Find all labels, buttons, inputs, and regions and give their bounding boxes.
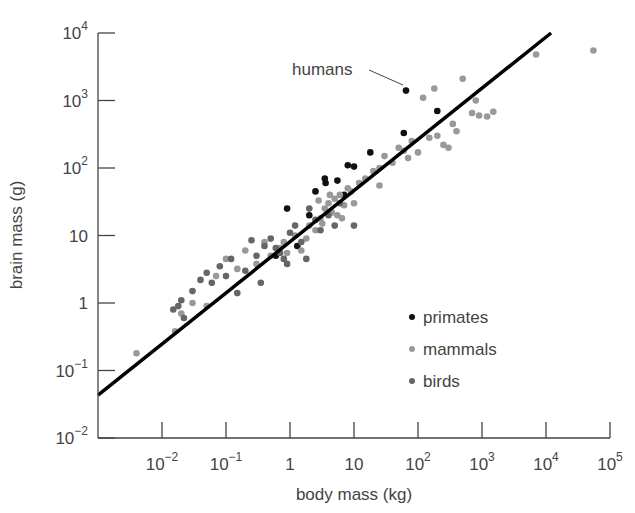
mammals-point (298, 247, 305, 254)
y-tick-label: 10 (69, 227, 88, 246)
annotation-label: humans (292, 60, 352, 79)
x-tick-label: 10−2 (146, 450, 179, 474)
mammals-point (327, 192, 334, 199)
mammals-point (426, 135, 433, 142)
mammals-point (533, 51, 540, 58)
primates-point (284, 205, 291, 212)
birds-point (178, 297, 185, 304)
birds-point (209, 279, 216, 286)
x-ticks: 10−210−1110102103104105 (146, 422, 623, 474)
mammals-legend-label: mammals (423, 340, 497, 359)
primates-point (334, 177, 341, 184)
birds-point (306, 205, 313, 212)
x-tick-label: 104 (533, 450, 559, 474)
birds-point (234, 290, 241, 297)
mammals-point (351, 200, 358, 207)
y-tick-label: 10−2 (55, 424, 88, 448)
primates-point (434, 108, 441, 115)
x-tick-label: 10 (345, 455, 364, 474)
primates-point (312, 188, 319, 195)
birds-point (258, 279, 265, 286)
birds-point (203, 270, 210, 277)
y-ticks: 10410310210110−110−2 (55, 19, 115, 448)
mammals-point (339, 215, 346, 222)
birds-point (292, 222, 299, 229)
y-tick-label: 1 (79, 294, 88, 313)
y-tick-label: 104 (62, 19, 88, 43)
birds-legend-marker (409, 378, 415, 384)
mammals-point (415, 149, 422, 156)
y-tick-label: 103 (62, 87, 88, 111)
x-tick-label: 1 (285, 455, 294, 474)
birds-point (175, 303, 182, 310)
birds-point (267, 235, 274, 242)
x-axis-title: body mass (kg) (296, 485, 412, 504)
mammals-point (420, 94, 427, 101)
x-tick-label: 105 (597, 450, 623, 474)
mammals-point (490, 109, 497, 116)
mammals-point (453, 128, 460, 135)
mammals-point (234, 266, 241, 273)
primates-legend-marker (409, 314, 415, 320)
mammals-point (315, 197, 322, 204)
mammals-point (431, 85, 438, 92)
birds-point (331, 222, 338, 229)
birds-point (242, 268, 249, 275)
y-axis-title: brain mass (g) (7, 181, 26, 290)
birds-point (317, 227, 324, 234)
primates-point (403, 87, 410, 94)
mammals-point (590, 47, 597, 54)
mammals-point (484, 113, 491, 120)
mammals-point (476, 112, 483, 119)
primates-point (322, 180, 329, 187)
axes (98, 33, 610, 438)
primates-point (306, 212, 313, 219)
birds-point (228, 256, 235, 263)
birds-point (287, 229, 294, 236)
primates-point (401, 130, 408, 137)
mammals-point (381, 153, 388, 160)
primates-point (345, 162, 352, 169)
mammals-legend-marker (409, 346, 415, 352)
birds-point (189, 288, 196, 295)
annotation-humans: humans (292, 60, 403, 85)
birds-point (181, 315, 188, 322)
x-tick-label: 10−1 (210, 450, 243, 474)
mammals-point (376, 182, 383, 189)
mammals-point (445, 144, 452, 151)
birds-point (303, 256, 310, 263)
primates-legend-label: primates (423, 308, 488, 327)
y-tick-label: 10−1 (55, 357, 88, 381)
mammals-point (319, 220, 326, 227)
mammals-point (337, 192, 344, 199)
x-tick-label: 103 (469, 450, 495, 474)
mammals-point (405, 155, 412, 162)
scatter-chart: 10410310210110−110−2 10−210−111010210310… (0, 0, 635, 513)
x-tick-label: 102 (405, 450, 431, 474)
mammals-point (189, 300, 196, 307)
mammals-point (242, 247, 249, 254)
birds-point (223, 273, 230, 280)
birds-legend-label: birds (423, 372, 460, 391)
birds-point (197, 277, 204, 284)
primates-point (367, 149, 374, 156)
y-tick-label: 102 (62, 154, 88, 178)
birds-point (261, 243, 268, 250)
mammals-point (450, 121, 457, 128)
birds-point (298, 239, 305, 246)
mammals-point (434, 133, 441, 140)
mammals-point (325, 200, 332, 207)
legend: primatesmammalsbirds (409, 308, 497, 391)
birds-point (248, 237, 255, 244)
birds-point (351, 222, 358, 229)
primates-point (351, 163, 358, 170)
mammals-point (284, 250, 291, 257)
mammals-point (459, 76, 466, 83)
annotation-leader (369, 70, 403, 85)
birds-point (253, 253, 260, 260)
mammals-point (473, 97, 480, 104)
mammals-point (133, 350, 140, 357)
birds-point (284, 261, 291, 268)
mammals-point (213, 273, 220, 280)
birds-point (217, 263, 224, 270)
